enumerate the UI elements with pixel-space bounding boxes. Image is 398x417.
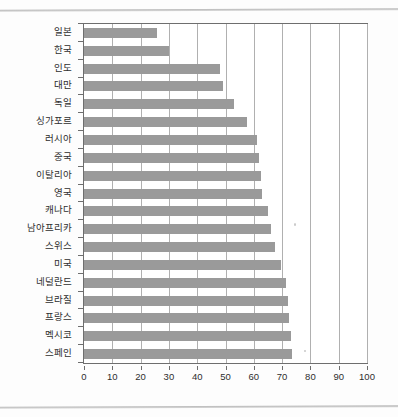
bar-row bbox=[84, 28, 367, 38]
bar bbox=[84, 278, 286, 288]
y-axis-label: 네덜란드 bbox=[36, 276, 72, 287]
y-axis-label: 멕시코 bbox=[45, 329, 72, 340]
y-axis-label: 인도 bbox=[54, 62, 72, 73]
x-axis-tick bbox=[197, 366, 198, 370]
bar bbox=[84, 46, 169, 56]
y-axis-label: 프랑스 bbox=[45, 311, 72, 322]
y-axis-label: 이탈리아 bbox=[36, 169, 72, 180]
bar bbox=[84, 153, 259, 163]
bar bbox=[84, 117, 247, 127]
y-axis-label: 스위스 bbox=[45, 240, 72, 251]
y-axis-label: 중국 bbox=[54, 151, 72, 162]
bar-row bbox=[84, 99, 367, 109]
x-axis-label: 100 bbox=[359, 371, 375, 382]
bar bbox=[84, 224, 271, 234]
bar-row bbox=[84, 81, 367, 91]
page-rule-bottom bbox=[0, 405, 398, 408]
x-axis-tick bbox=[112, 366, 113, 370]
bar-row bbox=[84, 331, 367, 341]
x-axis-labels: 0102030405060708090100 bbox=[0, 366, 398, 386]
x-axis-label: 40 bbox=[192, 371, 203, 382]
bar bbox=[84, 28, 157, 38]
x-axis-tick bbox=[310, 366, 311, 370]
bar bbox=[84, 296, 288, 306]
y-axis-label: 일본 bbox=[54, 26, 72, 37]
y-axis-label: 영국 bbox=[54, 187, 72, 198]
chart-page: 일본한국인도대만독일싱가포르러시아중국이탈리아영국캐나다남아프리카스위스미국네덜… bbox=[0, 0, 398, 417]
x-axis-tick bbox=[226, 366, 227, 370]
x-axis-label: 10 bbox=[107, 371, 118, 382]
bar bbox=[84, 171, 261, 181]
bar-row bbox=[84, 349, 367, 359]
scan-speck bbox=[304, 350, 306, 352]
x-axis-tick bbox=[339, 366, 340, 370]
bar-row bbox=[84, 278, 367, 288]
x-axis-label: 80 bbox=[305, 371, 316, 382]
bar bbox=[84, 242, 275, 252]
gridline-100 bbox=[367, 24, 368, 363]
bar-row bbox=[84, 171, 367, 181]
plot-area bbox=[83, 23, 368, 364]
x-axis-label: 0 bbox=[81, 371, 86, 382]
bar bbox=[84, 99, 234, 109]
y-axis-label: 대만 bbox=[54, 79, 72, 90]
bar-row bbox=[84, 135, 367, 145]
bar bbox=[84, 260, 281, 270]
bar-row bbox=[84, 296, 367, 306]
x-axis-label: 70 bbox=[277, 371, 288, 382]
bar bbox=[84, 313, 289, 323]
x-axis-tick bbox=[282, 366, 283, 370]
y-axis-label: 스페인 bbox=[45, 347, 72, 358]
y-axis-label: 한국 bbox=[54, 44, 72, 55]
bar-row bbox=[84, 242, 367, 252]
bar-row bbox=[84, 117, 367, 127]
y-axis-label: 싱가포르 bbox=[36, 115, 72, 126]
bar-row bbox=[84, 46, 367, 56]
scan-speck bbox=[294, 223, 296, 226]
x-axis-tick bbox=[169, 366, 170, 370]
bar-row bbox=[84, 153, 367, 163]
bar-row bbox=[84, 189, 367, 199]
x-axis-tick bbox=[254, 366, 255, 370]
bar bbox=[84, 64, 220, 74]
bar-row bbox=[84, 206, 367, 216]
x-axis-tick bbox=[367, 366, 368, 370]
bar-chart: 일본한국인도대만독일싱가포르러시아중국이탈리아영국캐나다남아프리카스위스미국네덜… bbox=[0, 14, 398, 394]
bar-row bbox=[84, 64, 367, 74]
bar bbox=[84, 189, 262, 199]
x-axis-tick bbox=[84, 366, 85, 370]
y-axis-label: 독일 bbox=[54, 97, 72, 108]
y-axis-label: 러시아 bbox=[45, 133, 72, 144]
x-axis-label: 60 bbox=[249, 371, 260, 382]
x-axis-label: 30 bbox=[164, 371, 175, 382]
y-axis-label: 브라질 bbox=[45, 294, 72, 305]
x-axis-label: 50 bbox=[220, 371, 231, 382]
bar-row bbox=[84, 224, 367, 234]
y-axis-label: 미국 bbox=[54, 258, 72, 269]
bar bbox=[84, 135, 257, 145]
bar-row bbox=[84, 313, 367, 323]
bar-series bbox=[84, 24, 367, 363]
x-axis-label: 90 bbox=[333, 371, 344, 382]
y-axis-category-labels: 일본한국인도대만독일싱가포르러시아중국이탈리아영국캐나다남아프리카스위스미국네덜… bbox=[0, 23, 78, 364]
bar bbox=[84, 206, 268, 216]
y-axis-label: 캐나다 bbox=[45, 204, 72, 215]
bar bbox=[84, 331, 291, 341]
bar bbox=[84, 349, 292, 359]
bar bbox=[84, 81, 223, 91]
x-axis-tick bbox=[141, 366, 142, 370]
y-axis-label: 남아프리카 bbox=[27, 222, 72, 233]
page-rule-top bbox=[0, 8, 398, 12]
bar-row bbox=[84, 260, 367, 270]
x-axis-label: 20 bbox=[135, 371, 146, 382]
